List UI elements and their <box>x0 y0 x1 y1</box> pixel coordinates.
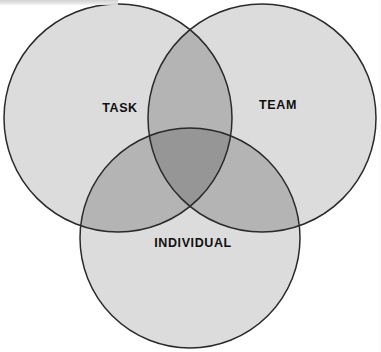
label-team: TEAM <box>259 98 297 112</box>
label-individual: INDIVIDUAL <box>154 236 232 250</box>
venn-diagram-canvas: TASK TEAM INDIVIDUAL <box>0 0 381 352</box>
label-task: TASK <box>102 101 138 115</box>
venn-diagram: TASK TEAM INDIVIDUAL <box>0 0 381 352</box>
